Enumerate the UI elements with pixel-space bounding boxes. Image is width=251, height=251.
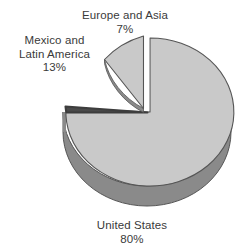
slice-label-europe-and-asia-name: Europe and Asia [82,9,168,21]
slice-label-europe-and-asia: Europe and Asia 7% [60,9,190,36]
slice-label-mexico-and-latin-america-percent: 13% [4,61,105,75]
slice-label-mexico-and-latin-america-name-line1: Mexico and [25,34,85,46]
slice-exploded-europe-and-asia [105,36,144,113]
slice-label-mexico-and-latin-america: Mexico and Latin America 13% [4,34,105,75]
slice-label-united-states: United States 80% [78,219,186,246]
slice-label-united-states-percent: 80% [78,233,186,247]
explode-gap [145,37,150,111]
slice-label-mexico-and-latin-america-name-line2: Latin America [4,48,105,62]
pie-chart: Europe and Asia 7% Mexico and Latin Amer… [0,0,251,251]
slice-label-united-states-name: United States [97,219,167,231]
